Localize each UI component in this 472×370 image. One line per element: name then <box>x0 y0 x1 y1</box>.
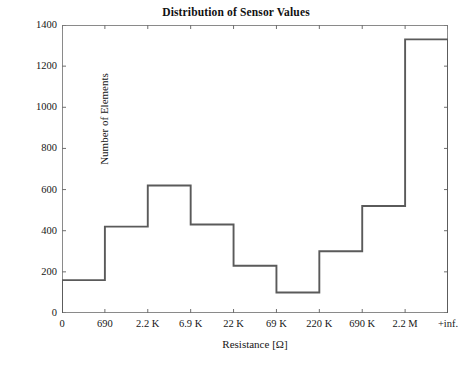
y-tick-label: 800 <box>41 143 57 154</box>
x-tick-label: 0 <box>59 319 64 330</box>
x-tick-label: 22 K <box>223 319 244 330</box>
y-tick-label: 200 <box>41 267 57 278</box>
x-tick-label: 69 K <box>266 319 287 330</box>
x-tick-label: 2.2 M <box>393 319 418 330</box>
plot-frame <box>62 25 448 313</box>
y-tick-label: 1400 <box>36 20 57 31</box>
histogram-step-line <box>62 39 448 313</box>
tick-marks <box>62 25 448 313</box>
x-axis-label: Resistance [Ω] <box>62 338 448 350</box>
y-tick-label: 400 <box>41 225 57 236</box>
plot-area: 0200400600800100012001400 06902.2 K6.9 K… <box>62 25 448 313</box>
chart-title: Distribution of Sensor Values <box>0 6 472 18</box>
y-tick-label: 600 <box>41 184 57 195</box>
x-tick-label: +inf. <box>438 319 458 330</box>
x-tick-label: 220 K <box>306 319 332 330</box>
x-tick-label: 2.2 K <box>136 319 159 330</box>
y-tick-label: 1200 <box>36 61 57 72</box>
y-axis-label: Number of Elements <box>98 39 110 199</box>
chart-figure: Distribution of Sensor Values 0200400600… <box>0 0 472 370</box>
x-tick-label: 690 <box>97 319 113 330</box>
y-tick-label: 0 <box>52 308 57 319</box>
x-tick-label: 6.9 K <box>179 319 202 330</box>
axes-box <box>63 26 448 313</box>
y-tick-label: 1000 <box>36 102 57 113</box>
x-tick-label: 690 K <box>349 319 375 330</box>
